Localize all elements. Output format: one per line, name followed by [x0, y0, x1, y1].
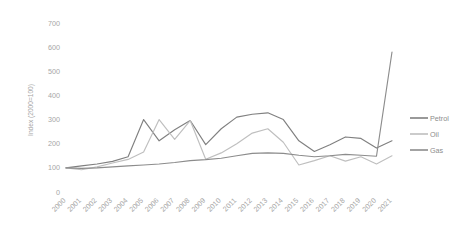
y-tick-label: 200: [48, 139, 60, 148]
y-axis-tick-labels: 0100200300400500600700: [48, 19, 60, 197]
x-tick-label: 2001: [65, 196, 83, 214]
x-tick-label: 2015: [283, 196, 301, 214]
series-lines: [66, 52, 392, 170]
x-tick-label: 2002: [81, 196, 99, 214]
x-tick-label: 2019: [345, 196, 363, 214]
series-line-oil: [66, 120, 392, 170]
x-tick-label: 2000: [50, 196, 68, 214]
y-tick-label: 0: [56, 188, 60, 197]
x-tick-label: 2018: [329, 196, 347, 214]
x-tick-label: 2014: [267, 196, 285, 214]
chart-container: 0100200300400500600700 Index (2000=100) …: [0, 0, 476, 243]
chart-plot-svg: 0100200300400500600700 Index (2000=100) …: [0, 0, 476, 243]
y-tick-label: 400: [48, 91, 60, 100]
x-tick-label: 2006: [143, 196, 161, 214]
x-tick-label: 2016: [298, 196, 316, 214]
x-tick-label: 2013: [252, 196, 270, 214]
x-tick-label: 2004: [112, 196, 130, 214]
y-tick-label: 100: [48, 163, 60, 172]
legend-label-gas: Gas: [430, 146, 444, 155]
legend-label-petrol: Petrol: [430, 114, 449, 123]
y-axis-title: Index (2000=100): [27, 84, 35, 136]
legend-label-oil: Oil: [430, 130, 439, 139]
y-tick-label: 300: [48, 115, 60, 124]
y-axis-title-text: Index (2000=100): [27, 84, 35, 136]
x-tick-label: 2011: [221, 196, 238, 213]
y-tick-label: 700: [48, 19, 60, 28]
x-tick-label: 2017: [314, 196, 332, 214]
x-tick-label: 2005: [127, 196, 145, 214]
y-tick-label: 500: [48, 67, 60, 76]
x-tick-label: 2021: [376, 196, 394, 214]
x-tick-label: 2012: [236, 196, 254, 214]
x-tick-label: 2020: [360, 196, 378, 214]
x-tick-label: 2010: [205, 196, 223, 214]
x-tick-label: 2008: [174, 196, 192, 214]
series-line-gas: [66, 52, 392, 168]
x-tick-label: 2007: [158, 196, 176, 214]
x-tick-label: 2003: [96, 196, 114, 214]
chart-legend: PetrolOilGas: [410, 114, 449, 155]
series-line-petrol: [66, 113, 392, 168]
x-axis-tick-labels: 2000200120022003200420052006200720082009…: [50, 196, 394, 214]
y-tick-label: 600: [48, 43, 60, 52]
x-tick-label: 2009: [189, 196, 207, 214]
